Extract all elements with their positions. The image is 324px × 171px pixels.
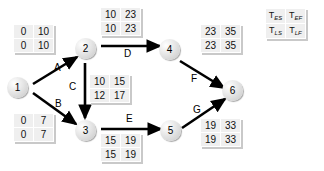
edge-label-G: G xyxy=(193,104,201,115)
time-table-D: 10 23 10 23 xyxy=(100,7,141,36)
node-3[interactable]: 3 xyxy=(75,120,96,141)
cell-TLF: 10 xyxy=(34,39,54,53)
cell-TLS: 0 xyxy=(14,39,34,53)
time-table-G: 19 33 19 33 xyxy=(200,118,241,147)
edge-label-B: B xyxy=(55,98,62,109)
edge-F xyxy=(180,61,224,88)
cell-TLS: 10 xyxy=(101,22,121,36)
time-table-A: 0 10 0 10 xyxy=(13,24,54,53)
cell-TEF: 19 xyxy=(121,134,141,148)
edge-label-F: F xyxy=(191,73,197,84)
cell-TLF: 7 xyxy=(34,128,54,142)
cell-TLS: 23 xyxy=(201,39,221,53)
cell-TEF: 23 xyxy=(121,8,141,22)
cell-TLS: 12 xyxy=(90,89,110,103)
legend-subscript: LF xyxy=(295,30,302,36)
cell-TES: 10 xyxy=(101,8,121,22)
legend-cell-TES: TES xyxy=(266,9,286,24)
legend-subscript: EF xyxy=(294,15,302,21)
cell-TES: 0 xyxy=(14,114,34,128)
cell-TEF: 10 xyxy=(34,25,54,39)
time-table-E: 15 19 15 19 xyxy=(100,133,141,162)
cell-TLF: 35 xyxy=(221,39,241,53)
legend-cell-TEF: TEF xyxy=(286,9,306,24)
cell-TEF: 15 xyxy=(110,75,130,89)
node-6[interactable]: 6 xyxy=(222,80,243,101)
node-5[interactable]: 5 xyxy=(160,120,181,141)
time-table-B: 0 7 0 7 xyxy=(13,113,54,142)
network-diagram-canvas: 1 2 3 4 5 6 A B C D E F G 0 10 0 10 0 7 … xyxy=(0,0,324,171)
cell-TLF: 23 xyxy=(121,22,141,36)
cell-TES: 0 xyxy=(14,25,34,39)
time-notation-legend: TES TEF TLS TLF xyxy=(265,8,306,39)
edge-label-D: D xyxy=(124,48,131,59)
edge-label-E: E xyxy=(126,113,133,124)
legend-subscript: LS xyxy=(275,30,282,36)
legend-base: T xyxy=(289,25,295,35)
cell-TEF: 35 xyxy=(221,25,241,39)
node-1[interactable]: 1 xyxy=(7,77,28,98)
cell-TES: 10 xyxy=(90,75,110,89)
cell-TEF: 33 xyxy=(221,119,241,133)
cell-TES: 15 xyxy=(101,134,121,148)
cell-TEF: 7 xyxy=(34,114,54,128)
node-2[interactable]: 2 xyxy=(75,38,96,59)
cell-TLS: 0 xyxy=(14,128,34,142)
edge-label-C: C xyxy=(69,81,76,92)
cell-TLF: 19 xyxy=(121,148,141,162)
node-4[interactable]: 4 xyxy=(159,39,180,60)
time-table-F: 23 35 23 35 xyxy=(200,24,241,53)
legend-cell-TLF: TLF xyxy=(286,24,306,39)
legend-base: T xyxy=(269,25,275,35)
time-table-C: 10 15 12 17 xyxy=(89,74,130,103)
cell-TLS: 19 xyxy=(201,133,221,147)
cell-TLS: 15 xyxy=(101,148,121,162)
legend-cell-TLS: TLS xyxy=(266,24,286,39)
cell-TLF: 33 xyxy=(221,133,241,147)
edge-label-A: A xyxy=(54,62,61,73)
cell-TES: 19 xyxy=(201,119,221,133)
legend-subscript: ES xyxy=(274,15,282,21)
cell-TES: 23 xyxy=(201,25,221,39)
cell-TLF: 17 xyxy=(110,89,130,103)
